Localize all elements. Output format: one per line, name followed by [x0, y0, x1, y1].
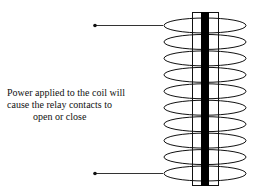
top-terminal-dot[interactable]: [93, 24, 97, 28]
bottom-terminal-dot[interactable]: [93, 172, 97, 176]
caption-line-2: cause the relay contacts to: [2, 99, 126, 111]
coil-caption: Power applied to the coil will cause the…: [2, 87, 126, 123]
core-bar: [201, 12, 209, 186]
caption-line-1: Power applied to the coil will: [2, 87, 126, 99]
caption-line-3: open or close: [2, 111, 126, 123]
bottom-lead: [93, 172, 163, 176]
top-lead: [93, 24, 163, 28]
